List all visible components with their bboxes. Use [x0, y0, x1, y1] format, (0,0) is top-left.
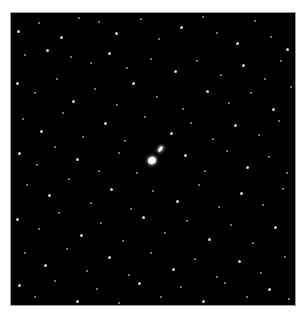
star	[108, 52, 111, 55]
star	[60, 36, 63, 39]
star	[152, 190, 154, 192]
star	[268, 156, 270, 158]
galaxy	[157, 146, 163, 153]
star	[258, 134, 260, 136]
star	[58, 212, 60, 214]
star	[54, 146, 56, 148]
star	[126, 67, 128, 69]
star	[224, 282, 226, 284]
star	[108, 256, 111, 259]
star	[110, 188, 113, 191]
star	[212, 138, 214, 140]
star	[94, 88, 96, 90]
star	[158, 38, 160, 40]
star	[278, 120, 280, 122]
star	[82, 136, 84, 138]
star	[260, 272, 262, 274]
star	[274, 226, 277, 229]
star	[76, 300, 79, 303]
star	[46, 49, 49, 52]
star	[38, 228, 40, 230]
star	[76, 158, 79, 161]
star	[18, 284, 21, 287]
star	[142, 216, 145, 219]
star	[100, 222, 102, 224]
star	[236, 42, 239, 45]
star	[116, 104, 118, 106]
star	[118, 152, 120, 154]
star	[198, 184, 200, 186]
star	[70, 56, 72, 58]
star	[130, 208, 132, 210]
star	[206, 90, 209, 93]
star	[22, 118, 24, 120]
star	[90, 202, 92, 204]
star	[115, 32, 118, 35]
star	[80, 234, 83, 237]
star	[96, 288, 98, 290]
star	[286, 172, 288, 174]
star	[246, 296, 248, 298]
star	[16, 82, 19, 85]
star	[66, 248, 68, 250]
star	[204, 170, 206, 172]
star	[24, 54, 26, 56]
star	[128, 274, 130, 276]
star	[226, 150, 228, 152]
star	[252, 242, 254, 244]
star	[284, 256, 286, 258]
star	[34, 296, 36, 298]
star	[218, 206, 220, 208]
star	[202, 16, 204, 18]
star	[216, 32, 218, 34]
star	[72, 100, 75, 103]
star	[242, 64, 245, 67]
star	[86, 270, 88, 272]
star	[234, 124, 237, 127]
star	[208, 238, 211, 241]
star	[18, 152, 21, 155]
star	[240, 192, 243, 195]
star	[176, 200, 179, 203]
star	[186, 220, 188, 222]
star	[246, 166, 249, 169]
star	[150, 58, 152, 60]
star	[220, 74, 222, 76]
star	[196, 60, 198, 62]
star	[118, 302, 120, 304]
star	[144, 116, 146, 118]
star	[136, 172, 138, 174]
star	[26, 184, 28, 186]
star	[254, 20, 256, 22]
star	[262, 204, 264, 206]
star-field-image	[10, 12, 296, 306]
star	[38, 22, 40, 24]
star	[122, 240, 124, 242]
star	[230, 224, 232, 226]
star	[104, 122, 107, 125]
star	[140, 18, 142, 20]
star	[190, 122, 192, 124]
star	[216, 276, 218, 278]
star	[282, 188, 284, 190]
star	[184, 154, 187, 157]
star	[182, 108, 184, 110]
star	[250, 92, 252, 94]
star	[56, 78, 58, 80]
star	[288, 298, 290, 300]
star	[280, 60, 282, 62]
star	[54, 280, 56, 282]
star	[124, 140, 126, 142]
star	[68, 178, 70, 180]
star	[290, 86, 292, 88]
star	[180, 286, 182, 288]
star	[132, 82, 135, 85]
star	[286, 48, 289, 51]
star	[62, 112, 64, 114]
star	[164, 232, 166, 234]
star	[17, 30, 20, 33]
star	[150, 252, 152, 254]
star	[90, 62, 92, 64]
star	[98, 170, 100, 172]
star	[160, 296, 162, 298]
